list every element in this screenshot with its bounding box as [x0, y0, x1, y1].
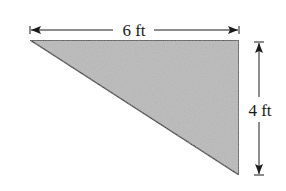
width-label: 6 ft	[122, 21, 145, 40]
height-label: 4 ft	[248, 101, 271, 120]
triangle-diagram: 6 ft 4 ft	[0, 0, 286, 191]
width-dimension: 6 ft	[30, 21, 239, 40]
shaded-triangle	[30, 40, 239, 175]
height-dimension: 4 ft	[248, 42, 271, 175]
